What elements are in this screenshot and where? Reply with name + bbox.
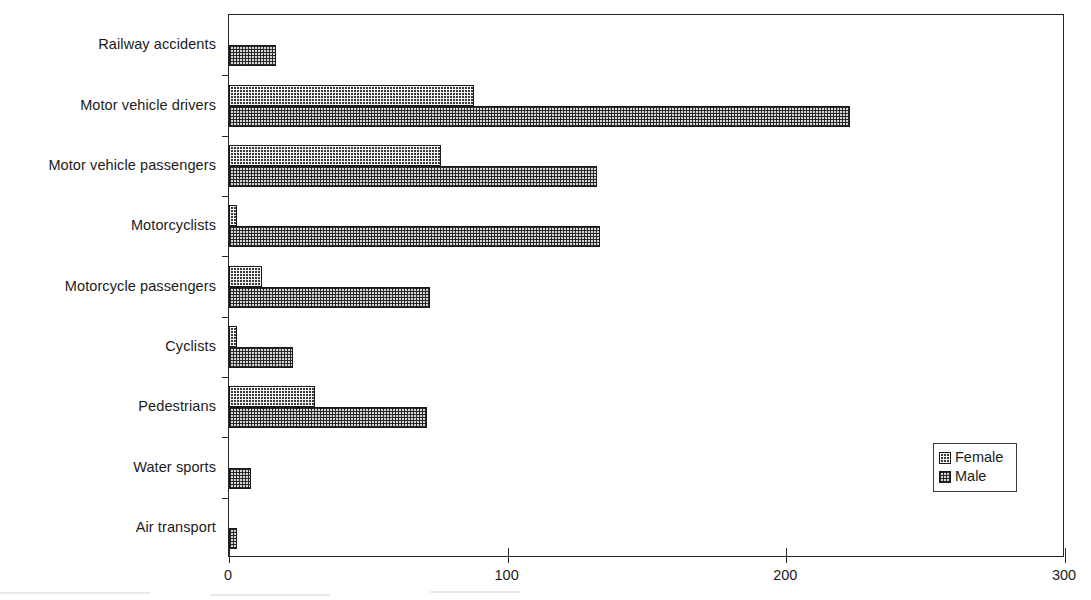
bar-group: [229, 85, 1063, 127]
y-axis-tick: [222, 498, 229, 499]
x-axis-label-1: 100: [495, 568, 519, 583]
scan-artifact: [430, 591, 520, 593]
x-axis-tick: [508, 556, 509, 563]
bar-male: [229, 106, 850, 127]
x-axis-tick-inner: [508, 548, 509, 556]
y-axis-label-2: Motor vehicle passengers: [48, 158, 216, 173]
bar-group: [229, 507, 1063, 549]
bar-female: [229, 205, 237, 226]
y-axis-label-1: Motor vehicle drivers: [80, 98, 216, 113]
x-axis-tick: [1065, 556, 1066, 563]
legend-label-male: Male: [955, 469, 986, 484]
bar-female: [229, 266, 262, 287]
y-axis-tick: [222, 196, 229, 197]
bar-group: [229, 326, 1063, 368]
bar-female: [229, 386, 315, 407]
x-axis-tick: [786, 556, 787, 563]
x-axis-tick-inner: [786, 548, 787, 556]
legend-label-female: Female: [955, 450, 1003, 465]
bar-male: [229, 407, 427, 428]
y-axis-tick: [222, 377, 229, 378]
scan-artifact: [0, 592, 150, 594]
y-axis-category-labels: Railway accidentsMotor vehicle driversMo…: [0, 14, 222, 557]
bar-male: [229, 166, 597, 187]
y-axis-label-0: Railway accidents: [98, 37, 216, 52]
bar-group: [229, 24, 1063, 66]
bar-male: [229, 287, 430, 308]
y-axis-label-7: Water sports: [133, 460, 216, 475]
y-axis-label-4: Motorcycle passengers: [65, 279, 216, 294]
y-axis-tick: [222, 136, 229, 137]
x-axis-label-0: 0: [224, 568, 232, 583]
x-axis-tick-inner: [229, 548, 230, 556]
y-axis-label-6: Pedestrians: [138, 399, 216, 414]
legend-item-male: Male: [939, 467, 1010, 486]
bar-group: [229, 205, 1063, 247]
chart-legend: Female Male: [933, 443, 1017, 492]
bar-male: [229, 226, 600, 247]
legend-item-female: Female: [939, 448, 1010, 467]
bar-female: [229, 145, 441, 166]
y-axis-tick: [222, 256, 229, 257]
bar-group: [229, 266, 1063, 308]
bar-female: [229, 326, 237, 347]
bar-group: [229, 386, 1063, 428]
scan-artifact: [210, 594, 330, 596]
bar-male: [229, 528, 237, 549]
x-axis-tick: [229, 556, 230, 563]
bar-male: [229, 45, 276, 66]
y-axis-tick: [222, 75, 229, 76]
y-axis-tick: [222, 437, 229, 438]
y-axis-label-3: Motorcyclists: [131, 218, 216, 233]
y-axis-label-5: Cyclists: [165, 339, 216, 354]
x-axis-label-2: 200: [773, 568, 797, 583]
bar-male: [229, 347, 293, 368]
legend-swatch-female-icon: [939, 452, 951, 464]
bar-chart: Railway accidentsMotor vehicle driversMo…: [0, 0, 1091, 600]
x-axis-label-3: 300: [1052, 568, 1076, 583]
bar-male: [229, 468, 251, 489]
x-axis-tick-inner: [1065, 548, 1066, 556]
bar-female: [229, 85, 474, 106]
y-axis-tick: [222, 317, 229, 318]
bar-group: [229, 145, 1063, 187]
legend-swatch-male-icon: [939, 471, 951, 483]
y-axis-label-8: Air transport: [136, 520, 216, 535]
